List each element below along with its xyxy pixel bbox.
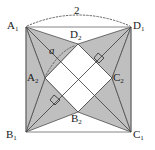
- geometry-canvas: [0, 0, 155, 150]
- geometry-figure: A1 D1 B1 C1 D2 A2 B2 C2 2 a: [0, 0, 155, 150]
- vertex-label-c2: C2: [113, 72, 124, 83]
- vertex-label-b1: B1: [6, 129, 17, 140]
- vertex-label-a1: A1: [7, 20, 18, 31]
- vertex-label-b2: B2: [71, 113, 82, 124]
- angle-label: a: [49, 45, 55, 56]
- vertex-label-c1: C1: [133, 129, 144, 140]
- vertex-label-d1: D1: [133, 20, 144, 31]
- side-length-label: 2: [74, 5, 80, 16]
- top-span-arc: [27, 15, 130, 26]
- vertex-label-d2: D2: [70, 29, 81, 40]
- vertex-label-a2: A2: [27, 72, 38, 83]
